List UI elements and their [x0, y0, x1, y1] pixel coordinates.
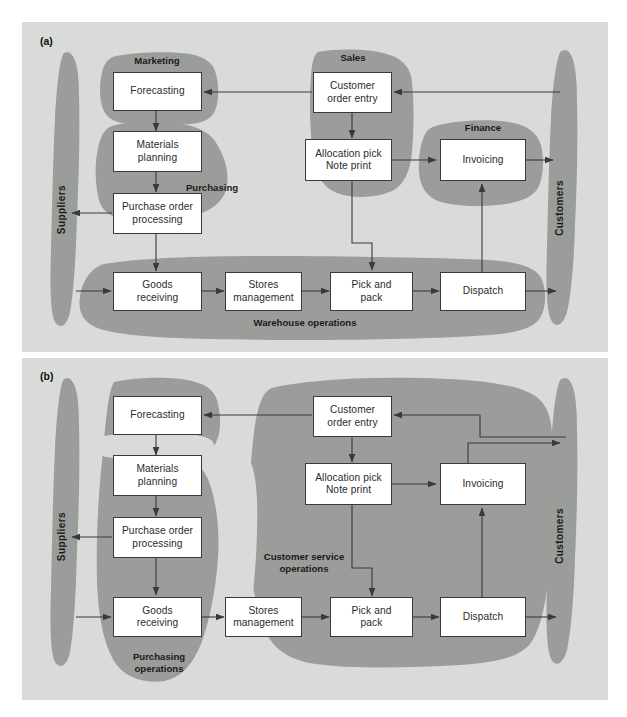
group-label-customer-service-operations-b: Customer service operations [245, 551, 363, 574]
box-invoicing-b-line1: Invoicing [462, 478, 503, 490]
group-label-purchasing-operations-b-line2: operations [134, 663, 183, 674]
box-invoicing-b[interactable]: Invoicing [440, 463, 526, 505]
box-goods-receiving-a-line2: receiving [137, 292, 179, 304]
box-purchase-order-processing-b-line2: processing [122, 538, 193, 550]
box-forecasting-a[interactable]: Forecasting [113, 72, 202, 111]
box-allocation-pick-note-print-a[interactable]: Allocation pick Note print [305, 139, 392, 181]
box-dispatch-a-line1: Dispatch [463, 285, 503, 297]
box-goods-receiving-b-line1: Goods [137, 605, 179, 617]
group-label-sales-a: Sales [313, 52, 393, 64]
group-label-warehouse-a: Warehouse operations [215, 317, 395, 329]
panel-a-letter: (a) [40, 35, 53, 47]
box-customer-order-entry-a-line1: Customer [327, 80, 377, 92]
box-dispatch-a[interactable]: Dispatch [440, 272, 526, 311]
box-stores-management-b[interactable]: Stores management [225, 597, 302, 637]
box-invoicing-a[interactable]: Invoicing [440, 139, 526, 181]
group-label-purchasing-operations-b-line1: Purchasing [133, 651, 185, 662]
group-label-marketing-a: Marketing [113, 55, 201, 67]
box-pick-and-pack-a-line1: Pick and [352, 279, 392, 291]
box-dispatch-b-line1: Dispatch [463, 611, 503, 623]
box-stores-management-b-line2: management [233, 617, 293, 629]
box-allocation-pick-note-print-a-line1: Allocation pick [315, 148, 382, 160]
box-purchase-order-processing-a[interactable]: Purchase order processing [113, 193, 202, 234]
box-purchase-order-processing-b-line1: Purchase order [122, 525, 193, 537]
group-label-purchasing-a: Purchasing [172, 182, 252, 194]
box-customer-order-entry-b[interactable]: Customer order entry [313, 396, 392, 437]
box-customer-order-entry-b-line1: Customer [327, 404, 377, 416]
box-materials-planning-b-line2: planning [136, 476, 178, 488]
box-purchase-order-processing-b[interactable]: Purchase order processing [113, 517, 202, 558]
group-label-finance-a: Finance [440, 122, 526, 134]
box-goods-receiving-a[interactable]: Goods receiving [113, 272, 202, 311]
box-goods-receiving-b[interactable]: Goods receiving [113, 597, 202, 637]
box-allocation-pick-note-print-a-line2: Note print [315, 160, 382, 172]
actor-label-suppliers-b: Suppliers [56, 512, 67, 561]
box-goods-receiving-a-line1: Goods [137, 279, 179, 291]
box-pick-and-pack-b-line2: pack [352, 617, 392, 629]
group-label-customer-service-operations-b-line1: Customer service [264, 551, 345, 562]
box-materials-planning-a-line2: planning [136, 152, 178, 164]
group-label-customer-service-operations-b-line2: operations [279, 563, 328, 574]
box-stores-management-a[interactable]: Stores management [225, 272, 302, 311]
box-stores-management-a-line1: Stores [233, 279, 293, 291]
box-forecasting-a-line1: Forecasting [130, 85, 184, 97]
panel-b-letter: (b) [40, 370, 53, 382]
box-goods-receiving-b-line2: receiving [137, 617, 179, 629]
box-forecasting-b-line1: Forecasting [130, 409, 184, 421]
box-stores-management-a-line2: management [233, 292, 293, 304]
box-pick-and-pack-a-line2: pack [352, 292, 392, 304]
box-materials-planning-a-line1: Materials [136, 139, 178, 151]
box-allocation-pick-note-print-b[interactable]: Allocation pick Note print [305, 463, 392, 505]
box-invoicing-a-line1: Invoicing [462, 154, 503, 166]
group-label-purchasing-operations-b: Purchasing operations [110, 651, 208, 674]
box-pick-and-pack-b[interactable]: Pick and pack [330, 597, 413, 637]
actor-label-customers-b: Customers [554, 508, 565, 564]
box-purchase-order-processing-a-line2: processing [122, 214, 193, 226]
box-pick-and-pack-a[interactable]: Pick and pack [330, 272, 413, 311]
box-pick-and-pack-b-line1: Pick and [352, 605, 392, 617]
box-allocation-pick-note-print-b-line1: Allocation pick [315, 472, 382, 484]
box-purchase-order-processing-a-line1: Purchase order [122, 201, 193, 213]
box-customer-order-entry-a-line2: order entry [327, 93, 377, 105]
box-materials-planning-a[interactable]: Materials planning [113, 131, 202, 172]
box-dispatch-b[interactable]: Dispatch [440, 597, 526, 637]
box-materials-planning-b-line1: Materials [136, 463, 178, 475]
box-customer-order-entry-a[interactable]: Customer order entry [313, 72, 392, 113]
box-forecasting-b[interactable]: Forecasting [113, 396, 202, 435]
box-allocation-pick-note-print-b-line2: Note print [315, 484, 382, 496]
box-stores-management-b-line1: Stores [233, 605, 293, 617]
actor-label-customers-a: Customers [554, 180, 565, 236]
actor-label-suppliers-a: Suppliers [56, 185, 67, 234]
box-materials-planning-b[interactable]: Materials planning [113, 455, 202, 496]
box-customer-order-entry-b-line2: order entry [327, 417, 377, 429]
figure-canvas: (a) Suppliers Customers Marketing Purcha… [0, 0, 627, 717]
